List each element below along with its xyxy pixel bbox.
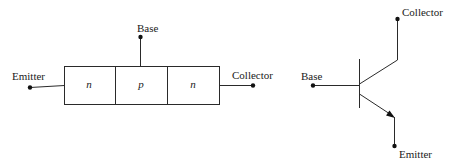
base-label: Base [137, 22, 159, 34]
emitter-arrow-icon [386, 111, 395, 119]
emitter-lead [30, 86, 65, 88]
symbol-collector-dot [395, 17, 399, 21]
symbol-base-label: Base [301, 70, 323, 82]
emitter-terminal-dot [28, 85, 32, 89]
symbol-emitter-label: Emitter [399, 148, 432, 160]
base-terminal-dot [138, 35, 142, 39]
symbol-base-dot [311, 83, 315, 87]
emitter-label: Emitter [12, 70, 45, 82]
npn-transistor-symbol: Base Collector Emitter [301, 6, 443, 160]
region-p-base: p [137, 78, 144, 90]
collector-terminal-dot [251, 83, 255, 87]
npn-block-diagram: n p n Emitter Base Collector [12, 22, 273, 105]
transistor-diagrams: n p n Emitter Base Collector Base Collec… [0, 0, 452, 164]
symbol-collector-label: Collector [402, 6, 443, 18]
symbol-emitter-dot [392, 144, 396, 148]
collector-label: Collector [232, 69, 273, 81]
collector-diagonal [360, 60, 398, 84]
region-n-collector: n [190, 78, 196, 90]
region-n-emitter: n [86, 78, 92, 90]
